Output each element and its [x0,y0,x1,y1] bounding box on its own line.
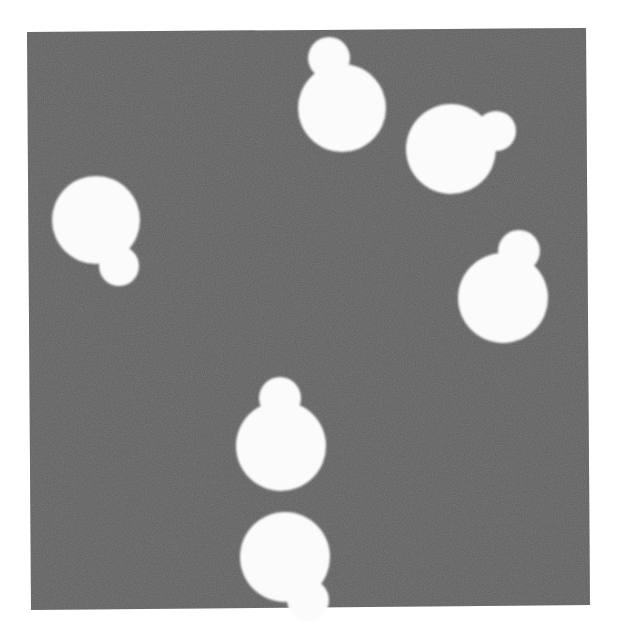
bud-cell [308,37,350,79]
bud-cell [498,230,540,272]
mother-cell [298,64,386,152]
microscopy-image [0,0,618,639]
mother-cell [458,253,548,343]
bud-cell [99,246,139,286]
bud-cell [476,111,516,151]
bud-cell [259,377,301,419]
bud-cell [287,579,329,621]
